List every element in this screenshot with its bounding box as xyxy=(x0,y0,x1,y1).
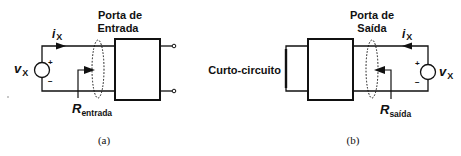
minus-sign: − xyxy=(415,78,420,87)
resistance-probe-line xyxy=(383,70,391,99)
stray-dot xyxy=(7,96,8,97)
caption-b: (b) xyxy=(347,134,360,147)
short-circuit-label: Curto-circuito xyxy=(208,64,281,76)
resistance-label: Rentrada xyxy=(72,101,112,118)
resistance-probe-line xyxy=(78,70,86,98)
terminal-icon xyxy=(172,89,176,93)
port-label-line1: Porta de xyxy=(350,9,394,21)
two-port-box xyxy=(308,39,353,100)
terminal-icon xyxy=(172,44,176,48)
voltage-label: vX xyxy=(14,61,28,78)
minus-sign: − xyxy=(48,77,53,86)
resistance-arrow-icon xyxy=(374,66,385,74)
figure-b: + − Porta de Saída iX vX Rsaída Curto-ci… xyxy=(208,9,453,147)
voltage-label: vX xyxy=(439,64,453,81)
port-label-line2: Saída xyxy=(357,22,387,34)
resistance-arrow-icon xyxy=(84,66,95,74)
plus-sign: + xyxy=(48,58,53,67)
resistance-label: Rsaída xyxy=(380,102,411,119)
voltage-source-icon xyxy=(421,65,436,80)
plus-sign: + xyxy=(415,59,420,68)
figure-a: + − Porta de Entrada iX vX Rentrada (a) xyxy=(14,9,176,147)
port-ellipse-icon xyxy=(366,40,378,98)
current-arrow-icon xyxy=(56,43,66,50)
current-label: iX xyxy=(402,27,412,42)
current-label: iX xyxy=(52,27,62,42)
caption-a: (a) xyxy=(98,134,111,147)
port-ellipse-icon xyxy=(92,40,104,98)
diagram-svg: + − Porta de Entrada iX vX Rentrada (a) xyxy=(0,0,461,156)
two-port-box xyxy=(115,39,160,100)
port-label-line2: Entrada xyxy=(98,22,140,34)
current-arrow-icon xyxy=(402,43,412,50)
port-label-line1: Porta de xyxy=(98,9,142,21)
two-port-resistance-diagram: + − Porta de Entrada iX vX Rentrada (a) xyxy=(0,0,461,156)
